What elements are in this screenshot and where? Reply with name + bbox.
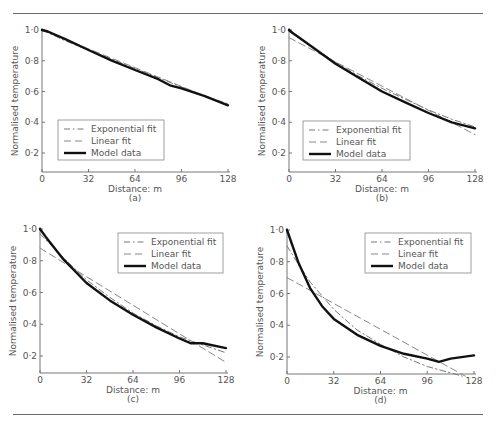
chart-panel-d: 0·20·40·60·81·00326496128Distance: m(d)N… — [0, 0, 500, 421]
y-axis-title: Normalised temperature — [255, 246, 265, 357]
y-tick-label: 1·0 — [270, 225, 285, 235]
legend-label: Exponential fit — [398, 237, 464, 247]
y-tick-label: 0·6 — [270, 289, 285, 299]
x-tick-label: 128 — [465, 376, 482, 386]
y-tick-label: 0·8 — [270, 257, 285, 267]
y-tick-label: 0·2 — [270, 352, 284, 362]
x-tick-label: 64 — [375, 376, 387, 386]
x-tick-label: 32 — [328, 376, 339, 386]
legend-label: Linear fit — [398, 249, 439, 259]
y-tick-label: 0·4 — [270, 320, 285, 330]
legend-label: Model data — [398, 261, 448, 271]
panel-label: (d) — [374, 395, 387, 405]
x-tick-label: 96 — [422, 376, 434, 386]
x-tick-label: 0 — [284, 376, 290, 386]
